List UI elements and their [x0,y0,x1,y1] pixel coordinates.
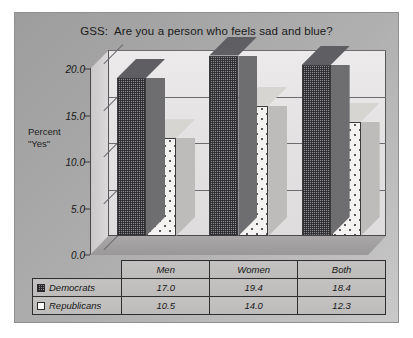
data-table: MenWomenBothDemocrats17.019.418.4Republi… [32,260,386,315]
dark-hatched-square-icon [37,284,45,292]
table-row: Republicans10.514.012.3 [33,297,386,315]
bar-front-face [117,78,146,236]
bar-series-layer [90,50,386,256]
table-header-women: Women [210,261,298,279]
y-axis-tick-label: 20.0 [66,64,85,75]
y-axis-tick-label: 0.0 [71,250,85,261]
table-header-men: Men [122,261,210,279]
table-corner-cell [33,261,122,279]
bar-front-face [209,56,238,236]
table-cell-republicans-men: 10.5 [122,297,210,315]
table-cell-republicans-women: 14.0 [210,297,298,315]
y-axis-tick-label: 15.0 [66,110,85,121]
white-square-icon [37,302,45,310]
bar-side-face [176,138,195,236]
table-row: Democrats17.019.418.4 [33,279,386,297]
bar-side-face [268,106,287,236]
bar-front-face [302,65,331,236]
bar-democrats-both[interactable] [302,65,331,236]
table-header-both: Both [298,261,386,279]
bar-top-face [117,59,165,78]
slide-canvas: GSS: Are you a person who feels sad and … [14,12,399,323]
legend-label: Republicans [49,300,101,311]
bar-side-face [238,56,257,236]
bar-side-face [146,78,165,236]
plot-area: 0.05.010.015.020.0 [90,50,386,260]
y-axis-label-line1: Percent [28,126,94,138]
table-cell-democrats-women: 19.4 [210,279,298,297]
y-axis-label: Percent "Yes" [28,126,94,150]
bar-top-face [302,46,350,65]
chart-title: GSS: Are you a person who feels sad and … [14,25,399,37]
y-axis-label-line2: "Yes" [28,138,94,150]
legend-label: Democrats [49,282,95,293]
legend-item-democrats[interactable]: Democrats [33,279,122,297]
table-cell-democrats-men: 17.0 [122,279,210,297]
legend-item-republicans[interactable]: Republicans [33,297,122,315]
bar-democrats-men[interactable] [117,78,146,236]
table-cell-democrats-both: 18.4 [298,279,386,297]
y-axis-tick-label: 10.0 [66,157,85,168]
table-row-categories: MenWomenBoth [33,261,386,279]
bar-top-face [209,37,257,56]
y-axis-tick-label: 5.0 [71,203,85,214]
bar-side-face [331,65,350,236]
bar-side-face [361,122,380,236]
bar-democrats-women[interactable] [209,56,238,236]
table-cell-republicans-both: 12.3 [298,297,386,315]
